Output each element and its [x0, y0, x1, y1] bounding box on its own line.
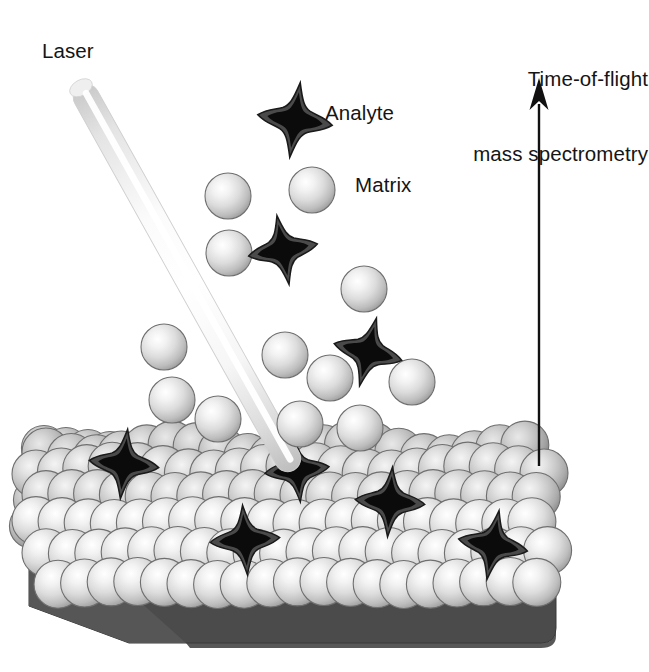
- matrix-sphere-plume: [206, 230, 252, 276]
- matrix-sphere-plume: [341, 266, 387, 312]
- matrix-sphere-plume: [307, 355, 353, 401]
- matrix-sphere-plume: [337, 405, 383, 451]
- matrix-sphere-plume: [389, 359, 435, 405]
- analyte-plume: [243, 210, 324, 291]
- matrix-sphere-plume: [149, 377, 195, 423]
- matrix-sphere-plume: [195, 396, 241, 442]
- bed-row: [34, 558, 561, 609]
- matrix-sphere-plume: [277, 401, 323, 447]
- label-laser: Laser: [42, 38, 94, 63]
- label-time-of-flight: Time-of-flight mass spectrometry: [473, 16, 648, 216]
- label-tof-line1: Time-of-flight: [473, 66, 648, 91]
- matrix-sphere-bed: [513, 558, 561, 606]
- matrix-sphere-plume: [262, 332, 308, 378]
- matrix-sphere-plume: [141, 324, 187, 370]
- matrix-sphere-plume: [205, 173, 251, 219]
- plume-matrix-group: [141, 167, 435, 451]
- matrix-sphere-plume: [289, 167, 335, 213]
- label-tof-line2: mass spectrometry: [473, 141, 648, 166]
- label-matrix: Matrix: [355, 172, 411, 197]
- maldi-diagram: Laser Analyte Matrix Time-of-flight mass…: [0, 0, 649, 672]
- label-analyte: Analyte: [325, 100, 394, 125]
